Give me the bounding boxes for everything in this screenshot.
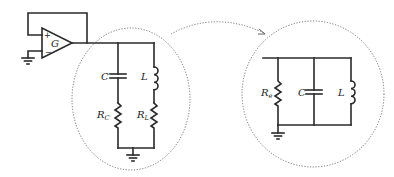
resistor-re (275, 58, 281, 125)
ground-icon (127, 155, 139, 161)
resistor-rl-label: RL (136, 109, 149, 122)
inductor-label: L (140, 71, 148, 82)
resistor-rc (115, 103, 121, 148)
arrow-head-icon (258, 29, 265, 34)
op-amp: G + − (42, 28, 72, 58)
minus-input-wire (28, 51, 42, 58)
amplifier-label: G (51, 38, 59, 49)
capacitor-label: C (101, 71, 109, 82)
resistor-rc-label: RC (96, 109, 110, 122)
plus-sign: + (44, 31, 51, 40)
capacitor-label-right: C (298, 87, 306, 98)
inductor-coil (154, 67, 158, 90)
dotted-curved-arrow (171, 22, 264, 34)
ground-icon (22, 58, 34, 64)
minus-sign: − (45, 48, 52, 57)
inductor-coil-right (351, 81, 355, 104)
resistor-re-label: Re (260, 87, 273, 100)
circuit-diagram: G + − C RC L RL Re (0, 0, 394, 177)
ground-icon (272, 133, 284, 139)
resistor-rl (151, 103, 157, 148)
inductor-label-right: L (337, 87, 345, 98)
